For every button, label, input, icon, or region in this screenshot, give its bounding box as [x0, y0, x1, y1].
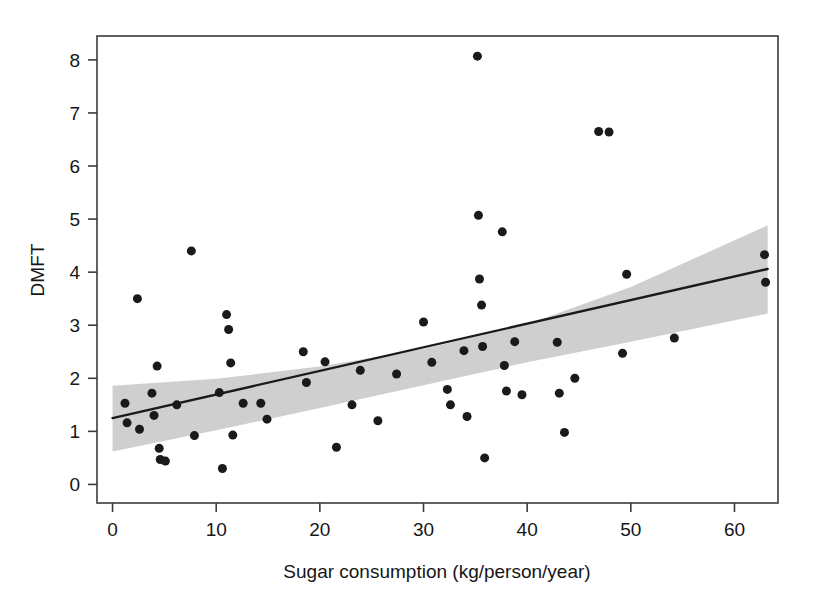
scatter-point [555, 389, 564, 398]
scatter-point [153, 362, 162, 371]
scatter-point [419, 318, 428, 327]
scatter-point [347, 400, 356, 409]
scatter-point [510, 337, 519, 346]
x-tick-label: 0 [107, 519, 118, 540]
scatter-point [760, 250, 769, 259]
y-tick-label: 4 [69, 262, 80, 283]
y-axis-label: DMFT [27, 243, 48, 296]
scatter-point [761, 278, 770, 287]
scatter-point [222, 310, 231, 319]
scatter-point [477, 301, 486, 310]
x-axis-label: Sugar consumption (kg/person/year) [283, 561, 590, 582]
scatter-point [502, 387, 511, 396]
y-tick-label: 8 [69, 50, 80, 71]
y-tick-label: 5 [69, 209, 80, 230]
scatter-point [459, 346, 468, 355]
y-tick-label: 1 [69, 421, 80, 442]
scatter-point [215, 388, 224, 397]
x-tick-label: 30 [413, 519, 434, 540]
scatter-point [475, 275, 484, 284]
scatter-point [500, 361, 509, 370]
scatter-point [392, 370, 401, 379]
scatter-point [517, 390, 526, 399]
scatter-point [560, 428, 569, 437]
scatter-point [570, 374, 579, 383]
scatter-point [302, 378, 311, 387]
scatter-point [224, 325, 233, 334]
scatter-point [239, 399, 248, 408]
scatter-point [443, 385, 452, 394]
scatter-point [373, 416, 382, 425]
scatter-point [133, 294, 142, 303]
x-tick-label: 50 [620, 519, 641, 540]
scatter-point [123, 418, 132, 427]
scatter-point [187, 246, 196, 255]
scatter-point [670, 333, 679, 342]
scatter-point [553, 338, 562, 347]
scatter-point [172, 400, 181, 409]
scatter-point [226, 358, 235, 367]
scatter-point [299, 347, 308, 356]
y-tick-label: 6 [69, 156, 80, 177]
scatter-point [155, 444, 164, 453]
scatter-point [446, 400, 455, 409]
scatter-point [190, 431, 199, 440]
scatter-point [473, 52, 482, 61]
scatter-point [120, 399, 129, 408]
y-tick-label: 0 [69, 474, 80, 495]
chart-canvas: 0102030405060012345678 Sugar consumption… [0, 0, 816, 615]
scatter-point [147, 389, 156, 398]
scatter-point [321, 357, 330, 366]
scatter-point [618, 349, 627, 358]
scatter-point [474, 211, 483, 220]
scatter-point [622, 270, 631, 279]
x-tick-label: 20 [309, 519, 330, 540]
scatter-point [427, 358, 436, 367]
scatter-point [262, 415, 271, 424]
x-tick-label: 10 [206, 519, 227, 540]
scatter-point [478, 342, 487, 351]
scatter-point [594, 127, 603, 136]
scatter-point [161, 457, 170, 466]
scatter-point [605, 128, 614, 137]
x-tick-label: 60 [724, 519, 745, 540]
scatter-point [256, 399, 265, 408]
scatter-plot-figure: 0102030405060012345678 Sugar consumption… [0, 0, 816, 615]
y-tick-label: 7 [69, 103, 80, 124]
scatter-point [332, 443, 341, 452]
scatter-point [480, 453, 489, 462]
y-tick-label: 3 [69, 315, 80, 336]
scatter-point [228, 431, 237, 440]
scatter-point [463, 412, 472, 421]
scatter-point [356, 366, 365, 375]
scatter-point [135, 425, 144, 434]
y-tick-label: 2 [69, 368, 80, 389]
scatter-point [150, 411, 159, 420]
scatter-point [218, 464, 227, 473]
x-tick-label: 40 [517, 519, 538, 540]
scatter-point [498, 227, 507, 236]
